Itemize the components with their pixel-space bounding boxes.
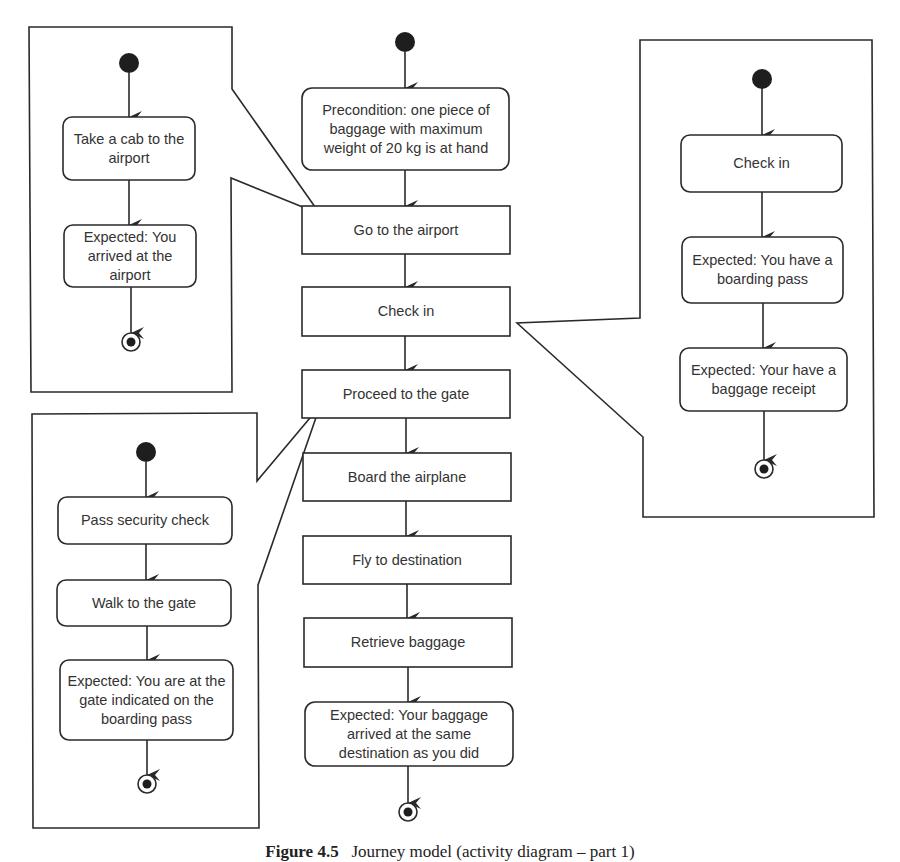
main-node-proceed-to-gate: Proceed to the gate xyxy=(302,370,510,418)
main-end-node-icon xyxy=(399,803,417,821)
main-node-board-airplane: Board the airplane xyxy=(303,453,511,501)
checkin-start-node-icon xyxy=(752,69,772,89)
cab-node-expected-arrived: Expected: You arrived at the airport xyxy=(76,225,184,287)
checkin-node-boarding-pass: Expected: You have a boarding pass xyxy=(684,237,841,303)
main-node-retrieve-baggage: Retrieve baggage xyxy=(304,618,512,667)
cab-node-take-cab: Take a cab to the airport xyxy=(66,117,192,180)
main-start-node-icon xyxy=(395,32,415,52)
gate-end-node-icon xyxy=(138,775,156,793)
cab-end-node-icon xyxy=(122,333,140,351)
gate-node-expected-at-gate: Expected: You are at the gate indicated … xyxy=(62,660,231,740)
main-node-check-in: Check in xyxy=(302,287,510,336)
checkin-node-baggage-receipt: Expected: Your have a baggage receipt xyxy=(684,348,843,411)
cab-start-node-icon xyxy=(119,53,139,73)
figure-caption: Figure 4.5 Journey model (activity diagr… xyxy=(0,842,900,862)
gate-start-node-icon xyxy=(136,442,156,462)
main-node-precondition: Precondition: one piece of baggage with … xyxy=(308,88,504,170)
checkin-node-check-in: Check in xyxy=(681,135,842,192)
main-node-go-to-airport: Go to the airport xyxy=(302,206,510,254)
figure-caption-text: Journey model (activity diagram – part 1… xyxy=(351,842,634,861)
main-node-expected-baggage: Expected: Your baggage arrived at the sa… xyxy=(312,702,506,766)
gate-node-security-check: Pass security check xyxy=(58,497,232,544)
figure-caption-label: Figure 4.5 xyxy=(265,842,338,861)
callout-frame-go-to-airport xyxy=(29,27,320,392)
main-node-fly-to-destination: Fly to destination xyxy=(303,536,511,584)
gate-node-walk-to-gate: Walk to the gate xyxy=(57,580,231,626)
checkin-end-node-icon xyxy=(755,460,773,478)
